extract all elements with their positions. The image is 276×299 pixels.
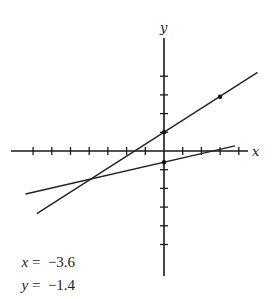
solution-y-value: −1.4 xyxy=(48,277,75,293)
y-axis-label: y xyxy=(159,20,168,35)
plotted-point xyxy=(218,95,222,99)
steeper-line xyxy=(37,72,258,213)
solution-y: y = −1.4 xyxy=(14,263,75,293)
graph-lines xyxy=(26,72,258,213)
axis-ticks xyxy=(33,76,239,244)
plotted-point xyxy=(162,130,166,134)
x-axis-label: x xyxy=(252,144,260,159)
solution-y-eq: = xyxy=(28,277,48,293)
plotted-point xyxy=(162,160,166,164)
